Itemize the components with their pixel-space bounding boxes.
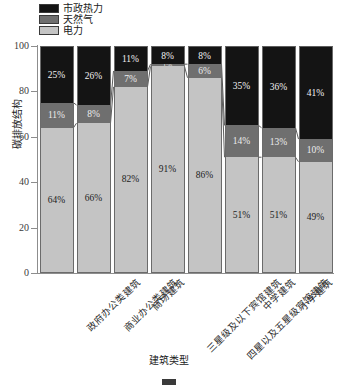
figure-caption-strip xyxy=(0,379,338,389)
y-tick-60 xyxy=(31,137,37,138)
bar-3-segment-0: 8% xyxy=(151,46,185,64)
bar-3[interactable]: 8%1%91% xyxy=(151,46,185,273)
bar-2-segment-1-value: 7% xyxy=(124,74,137,84)
bar-4-segment-2: 86% xyxy=(188,78,222,273)
bar-1-segment-1: 8% xyxy=(77,105,111,123)
y-axis-title: 碳排放结构 xyxy=(12,76,23,172)
y-tick-label-20: 20 xyxy=(2,223,29,233)
bar-3-segment-2-value: 91% xyxy=(159,164,176,174)
bar-5-segment-2: 51% xyxy=(225,157,259,273)
bar-0-segment-2-value: 64% xyxy=(48,195,65,205)
y-tick-label-100: 100 xyxy=(2,41,29,51)
figure-caption xyxy=(0,379,338,385)
bar-1[interactable]: 26%8%66% xyxy=(77,46,111,273)
x-axis-title: 建筑类型 xyxy=(0,352,338,367)
bar-6-segment-0: 36% xyxy=(262,46,296,128)
bar-2-segment-1: 7% xyxy=(114,71,148,87)
y-tick-label-0: 0 xyxy=(2,268,29,278)
bar-1-segment-0: 26% xyxy=(77,46,111,105)
bar-6[interactable]: 36%13%51% xyxy=(262,46,296,273)
y-tick-100 xyxy=(31,46,37,47)
bar-2-segment-2-value: 82% xyxy=(122,174,139,184)
bar-6-segment-2-value: 51% xyxy=(270,210,287,220)
legend-item-1: 天然气 xyxy=(39,14,103,25)
bar-4[interactable]: 8%6%86% xyxy=(188,46,222,273)
bar-2-segment-2: 82% xyxy=(114,87,148,273)
bar-4-segment-2-value: 86% xyxy=(196,170,213,180)
bar-5-segment-1-value: 14% xyxy=(233,136,250,146)
bar-5-segment-0: 35% xyxy=(225,46,259,125)
legend-item-0: 市政热力 xyxy=(39,3,103,14)
bar-6-segment-2: 51% xyxy=(262,157,296,273)
bar-7-segment-0: 41% xyxy=(299,46,333,139)
bar-1-segment-2: 66% xyxy=(77,123,111,273)
legend-label-electricity: 电力 xyxy=(63,26,83,36)
bar-0-segment-1: 11% xyxy=(40,103,74,128)
y-tick-80 xyxy=(31,91,37,92)
bar-1-segment-2-value: 66% xyxy=(85,193,102,203)
y-tick-0 xyxy=(31,273,37,274)
stacked-bar-chart: 市政热力 天然气 电力 020406080100 碳排放结构 25%11%64%… xyxy=(0,0,338,389)
bar-2[interactable]: 11%7%82% xyxy=(114,46,148,273)
bar-5-segment-1: 14% xyxy=(225,125,259,157)
legend-item-2: 电力 xyxy=(39,25,103,36)
bar-0-segment-0-value: 25% xyxy=(48,70,65,80)
bar-6-segment-1: 13% xyxy=(262,128,296,158)
bar-4-segment-0-value: 8% xyxy=(198,51,211,61)
legend-label-municipal-heat: 市政热力 xyxy=(63,4,103,14)
legend-swatch-municipal-heat xyxy=(39,4,59,13)
legend-swatch-electricity xyxy=(39,26,59,35)
chart-legend: 市政热力 天然气 电力 xyxy=(39,3,103,36)
plot-area: 25%11%64%26%8%66%11%7%82%8%1%91%8%6%86%3… xyxy=(38,46,334,273)
bar-7-segment-1-value: 10% xyxy=(307,145,324,155)
y-tick-20 xyxy=(31,228,37,229)
x-axis-line xyxy=(37,273,334,274)
bar-6-segment-0-value: 36% xyxy=(270,82,287,92)
caption-swatch xyxy=(162,379,176,385)
bar-7-segment-2-value: 49% xyxy=(307,212,324,222)
bar-7-segment-1: 10% xyxy=(299,139,333,162)
bar-7-segment-2: 49% xyxy=(299,162,333,273)
bar-5[interactable]: 35%14%51% xyxy=(225,46,259,273)
bar-6-segment-1-value: 13% xyxy=(270,137,287,147)
bar-2-segment-0: 11% xyxy=(114,46,148,71)
bar-1-segment-1-value: 8% xyxy=(87,109,100,119)
bar-7[interactable]: 41%10%49% xyxy=(299,46,333,273)
bar-0[interactable]: 25%11%64% xyxy=(40,46,74,273)
bar-7-segment-0-value: 41% xyxy=(307,88,324,98)
legend-swatch-natural-gas xyxy=(39,15,59,24)
y-tick-40 xyxy=(31,182,37,183)
bar-4-segment-1: 6% xyxy=(188,64,222,78)
bar-0-segment-2: 64% xyxy=(40,128,74,273)
bar-4-segment-1-value: 6% xyxy=(198,66,211,76)
bar-0-segment-0: 25% xyxy=(40,46,74,103)
bar-1-segment-0-value: 26% xyxy=(85,71,102,81)
bar-0-segment-1-value: 11% xyxy=(48,110,65,120)
bar-5-segment-2-value: 51% xyxy=(233,210,250,220)
y-tick-label-40: 40 xyxy=(2,177,29,187)
bar-2-segment-0-value: 11% xyxy=(122,54,139,64)
legend-label-natural-gas: 天然气 xyxy=(63,15,93,25)
bar-5-segment-0-value: 35% xyxy=(233,81,250,91)
bar-3-segment-2: 91% xyxy=(151,66,185,273)
bar-4-segment-0: 8% xyxy=(188,46,222,64)
bar-3-segment-0-value: 8% xyxy=(161,51,174,61)
